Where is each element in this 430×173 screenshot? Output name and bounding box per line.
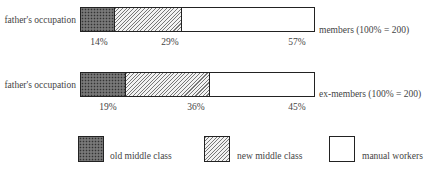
pct-manual-ex-members: 45%: [288, 102, 305, 112]
pct-old-members: 14%: [90, 37, 107, 47]
segment-new-middle-class: [114, 8, 182, 31]
pct-new-ex-members: 36%: [187, 102, 204, 112]
series-label-members: members (100% = 200): [319, 25, 409, 35]
legend-swatch-old-middle-class: [78, 136, 104, 162]
legend-label-new-middle-class: new middle class: [237, 151, 302, 161]
segment-old-middle-class: [81, 8, 114, 31]
legend-label-old-middle-class: old middle class: [110, 151, 172, 161]
legend-swatch-new-middle-class: [204, 136, 230, 162]
legend-label-manual-workers: manual workers: [362, 151, 423, 161]
segment-manual-workers: [209, 73, 314, 96]
series-label-ex-members: ex-members (100% = 200): [319, 89, 421, 99]
segment-manual-workers: [181, 8, 314, 31]
row-label-members: father's occupation: [0, 15, 76, 25]
pct-manual-members: 57%: [288, 37, 305, 47]
bar-ex-members: [80, 72, 315, 97]
bar-members: [80, 7, 315, 32]
pct-old-ex-members: 19%: [99, 102, 116, 112]
segment-old-middle-class: [81, 73, 125, 96]
legend-swatch-manual-workers: [329, 136, 355, 162]
row-label-ex-members: father's occupation: [0, 80, 76, 90]
pct-new-members: 29%: [161, 37, 178, 47]
segment-new-middle-class: [125, 73, 209, 96]
